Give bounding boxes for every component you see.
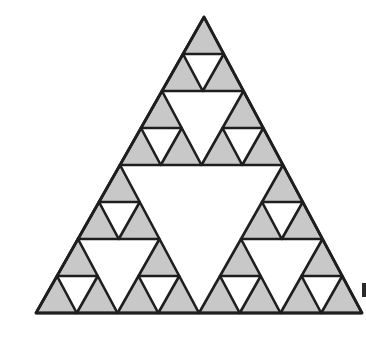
scan-edge-artifact: [362, 283, 366, 297]
sierpinski-triangle-diagram: [0, 0, 366, 348]
